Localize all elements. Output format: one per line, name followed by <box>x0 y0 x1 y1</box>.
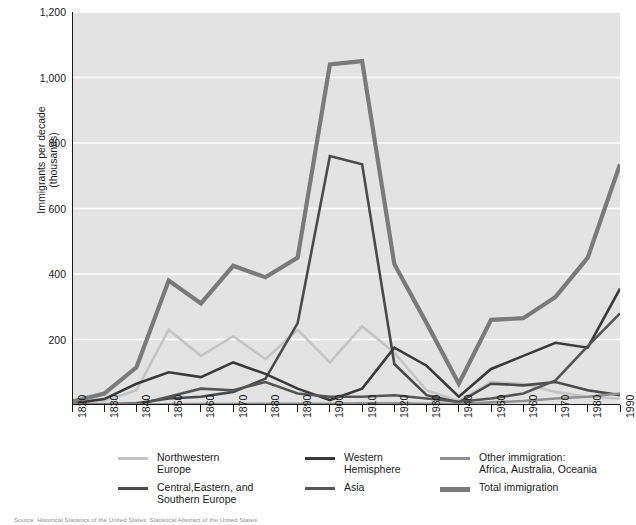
legend-label: Total immigration <box>479 482 558 494</box>
x-tick-mark <box>458 405 459 412</box>
x-tick-label: 1870 <box>238 395 249 418</box>
x-tick-mark <box>233 405 234 412</box>
x-tick-label: 1980 <box>592 395 603 418</box>
series-line-0 <box>72 326 620 404</box>
x-tick-mark <box>362 405 363 412</box>
legend-label: Asia <box>344 482 364 494</box>
y-tick-label: 200 <box>20 335 66 346</box>
chart-canvas <box>72 12 620 405</box>
source-note: Source: Historical Statistics of the Uni… <box>14 517 257 524</box>
y-tick-label: 800 <box>20 138 66 149</box>
legend-item[interactable]: Northwestern Europe <box>118 452 219 475</box>
x-tick-mark <box>426 405 427 412</box>
x-tick-mark <box>394 405 395 412</box>
legend-item[interactable]: Central,Eastern, and Southern Europe <box>118 482 253 505</box>
x-tick-label: 1920 <box>399 395 410 418</box>
x-tick-label: 1890 <box>302 395 313 418</box>
y-axis-title-line1: Immigrants per decade <box>35 106 47 213</box>
legend-swatch-icon <box>305 457 335 460</box>
legend-label: Northwestern Europe <box>157 452 219 475</box>
x-tick-mark <box>72 405 73 412</box>
x-tick-label: 1840 <box>141 395 152 418</box>
x-tick-mark <box>620 405 621 412</box>
legend-label: Other immigration: Africa, Australia, Oc… <box>479 452 597 475</box>
plot-area <box>72 12 620 405</box>
x-tick-label: 1950 <box>496 395 507 418</box>
legend-swatch-icon <box>305 487 335 490</box>
x-tick-mark <box>168 405 169 412</box>
series-line-1 <box>72 156 620 405</box>
x-tick-label: 1830 <box>109 395 120 418</box>
legend-item[interactable]: Other immigration: Africa, Australia, Oc… <box>440 452 597 475</box>
legend-swatch-icon <box>440 487 470 492</box>
chart-legend: Northwestern EuropeCentral,Eastern, and … <box>0 452 633 510</box>
x-tick-mark <box>555 405 556 412</box>
legend-swatch-icon <box>440 457 470 460</box>
x-tick-mark <box>297 405 298 412</box>
x-tick-label: 1940 <box>463 395 474 418</box>
x-tick-mark <box>587 405 588 412</box>
x-tick-mark <box>104 405 105 412</box>
x-tick-label: 1860 <box>205 395 216 418</box>
x-tick-label: 1820 <box>77 395 88 418</box>
x-tick-label: 1990 <box>625 395 636 418</box>
x-tick-label: 1900 <box>334 395 345 418</box>
x-tick-label: 1960 <box>528 395 539 418</box>
legend-swatch-icon <box>118 487 148 490</box>
x-tick-mark <box>136 405 137 412</box>
x-tick-mark <box>200 405 201 412</box>
x-tick-label: 1970 <box>560 395 571 418</box>
legend-item[interactable]: Western Hemisphere <box>305 452 401 475</box>
legend-label: Central,Eastern, and Southern Europe <box>157 482 253 505</box>
y-tick-label: 400 <box>20 269 66 280</box>
x-tick-mark <box>491 405 492 412</box>
x-tick-mark <box>265 405 266 412</box>
y-tick-label: 1,200 <box>20 7 66 18</box>
x-tick-mark <box>329 405 330 412</box>
x-tick-label: 1910 <box>367 395 378 418</box>
y-tick-label: 1,000 <box>20 73 66 84</box>
legend-label: Western Hemisphere <box>344 452 401 475</box>
legend-item[interactable]: Total immigration <box>440 482 558 494</box>
y-tick-label: 600 <box>20 204 66 215</box>
legend-swatch-icon <box>118 457 148 460</box>
legend-item[interactable]: Asia <box>305 482 364 494</box>
x-tick-label: 1850 <box>173 395 184 418</box>
x-tick-label: 1930 <box>431 395 442 418</box>
x-tick-label: 1880 <box>270 395 281 418</box>
x-tick-mark <box>523 405 524 412</box>
